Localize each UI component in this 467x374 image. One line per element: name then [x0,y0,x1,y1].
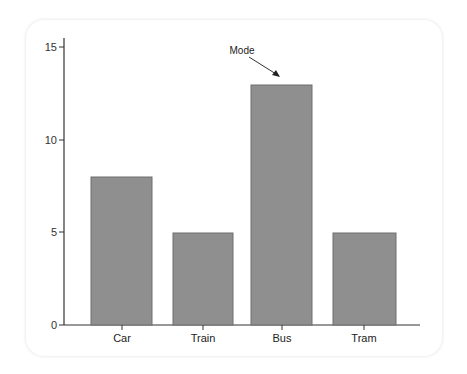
x-tick-label-car: Car [113,332,131,344]
bar-bus [251,85,312,325]
x-tick-label-train: Train [191,332,216,344]
bar-tram [333,233,396,325]
x-ticks: Car Train Bus Tram [113,325,377,344]
y-tick-label: 15 [45,41,57,53]
bars [91,85,396,325]
x-tick-label-tram: Tram [351,332,376,344]
y-tick-label: 5 [51,226,57,238]
y-tick-label: 10 [45,134,57,146]
bar-train [173,233,233,325]
bar-chart: 0 5 10 15 Car Train Bus Tram Mode [0,0,467,374]
y-ticks: 0 5 10 15 [45,41,64,331]
annotation-arrow-line [249,57,276,74]
y-tick-label: 0 [51,319,57,331]
x-tick-label-bus: Bus [273,332,292,344]
bar-car [91,177,152,325]
annotation-label: Mode [229,45,254,56]
mode-annotation: Mode [229,45,280,77]
arrow-head-icon [272,70,280,77]
